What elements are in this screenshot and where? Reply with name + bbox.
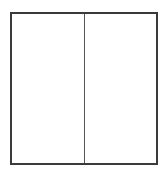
left-panel (12, 14, 85, 163)
right-panel (85, 14, 157, 163)
split-rectangle-frame (10, 12, 158, 165)
